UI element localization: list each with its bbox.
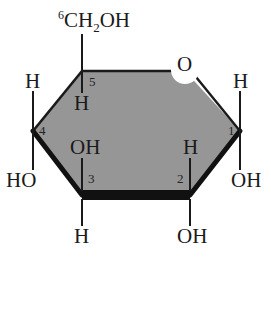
c2-hydrogen-label: H <box>183 137 198 158</box>
c3-hydrogen-label: H <box>74 226 89 247</box>
c4-hydrogen-label: H <box>25 71 40 92</box>
c2-hydroxyl-label: OH <box>177 226 207 247</box>
carbon-number-2: 2 <box>177 172 184 185</box>
carbon-number-1: 1 <box>228 124 235 137</box>
carbon-number-4: 4 <box>39 124 46 137</box>
pyranose-ring-graphic <box>0 0 271 321</box>
carbon-number-3: 3 <box>88 172 95 185</box>
carbon-number-5: 5 <box>89 75 96 88</box>
diagram-canvas: 6CH2OH O 5 4 1 3 2 H H HO H OH OH H H OH <box>0 0 271 321</box>
ring-oxygen-label: O <box>177 54 192 75</box>
ring-hexagon-fill <box>33 71 240 195</box>
c6-oh-text: OH <box>100 8 130 32</box>
c4-hydroxyl-label: HO <box>6 170 36 191</box>
c6-ch-text: CH <box>64 8 93 32</box>
c5-hydrogen-label: H <box>74 93 89 114</box>
c6-substituent-label: 6CH2OH <box>58 8 130 33</box>
c1-hydroxyl-label: OH <box>231 170 261 191</box>
c3-hydroxyl-label: OH <box>70 137 100 158</box>
c1-hydrogen-label: H <box>233 71 248 92</box>
